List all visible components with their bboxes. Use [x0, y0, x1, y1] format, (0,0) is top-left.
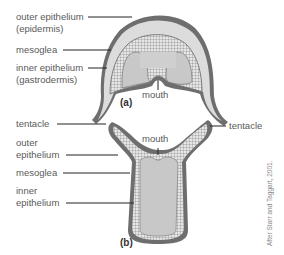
label-tentacle-a: tentacle	[229, 120, 262, 131]
label-outer-b-line2: epithelium	[16, 149, 59, 160]
label-epidermis-a: (epidermis)	[16, 23, 64, 34]
label-inner-b-line2: epithelium	[16, 197, 59, 208]
label-tentacle-b: tentacle	[16, 118, 49, 129]
label-mouth-a: mouth	[142, 89, 168, 100]
label-outer-b-line1: outer	[16, 137, 38, 148]
label-gastrodermis-a: (gastrodermis)	[16, 74, 77, 85]
label-mesoglea-b: mesoglea	[16, 167, 57, 178]
label-outer-epithelium-a: outer epithelium	[16, 11, 84, 22]
panel-b-label: (b)	[120, 237, 133, 248]
label-mesoglea-a: mesoglea	[16, 44, 57, 55]
label-inner-b-line1: inner	[16, 185, 37, 196]
credit-text: After Starr and Taggart, 2001.	[266, 160, 273, 246]
panel-a-label: (a)	[120, 97, 132, 108]
medusa-body	[92, 15, 228, 126]
label-inner-epithelium-a: inner epithelium	[16, 62, 83, 73]
label-mouth-b: mouth	[142, 133, 168, 144]
